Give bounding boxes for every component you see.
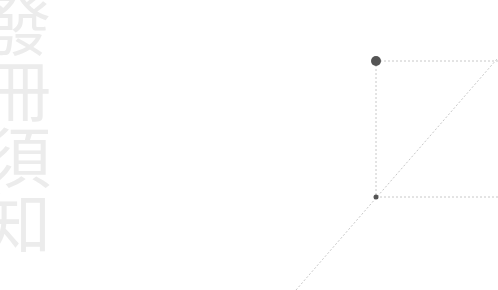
geometry-diagram	[0, 0, 498, 290]
bottom-point	[374, 195, 379, 200]
dotted-lines	[296, 59, 498, 290]
diagonal-line	[296, 59, 497, 290]
top-point	[371, 56, 381, 66]
